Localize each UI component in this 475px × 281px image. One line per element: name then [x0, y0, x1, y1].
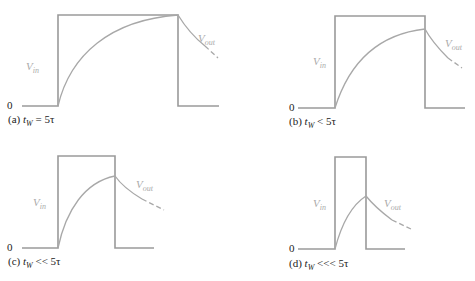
vout-decay-b [448, 58, 462, 68]
vout-label-b: Vout [445, 37, 462, 52]
vin-label-c: Vin [33, 196, 46, 211]
vout-label-c: Vout [136, 178, 153, 193]
caption-c: (c) tW << 5τ [8, 255, 61, 270]
vout-label-a: Vout [198, 32, 215, 47]
vout-curve-c [58, 176, 142, 248]
vout-curve-b [335, 29, 448, 108]
zero-label-a: 0 [7, 99, 13, 111]
caption-a: (a) tW = 5τ [8, 113, 54, 128]
vin-label-b: Vin [313, 55, 326, 70]
zero-label-b: 0 [289, 101, 295, 113]
vin-label-a: Vin [26, 60, 39, 75]
vout-curve-a [58, 15, 205, 106]
vout-label-d: Vout [384, 197, 401, 212]
vin-label-d: Vin [313, 197, 326, 212]
waveform-diagram [0, 0, 475, 281]
zero-label-d: 0 [289, 242, 295, 254]
vout-decay-c [142, 199, 164, 210]
caption-b: (b) tW < 5τ [289, 115, 336, 130]
vout-decay-a [205, 46, 218, 58]
caption-d: (d) tW <<< 5τ [289, 257, 348, 272]
zero-label-c: 0 [7, 241, 13, 253]
vout-decay-d [392, 220, 413, 230]
